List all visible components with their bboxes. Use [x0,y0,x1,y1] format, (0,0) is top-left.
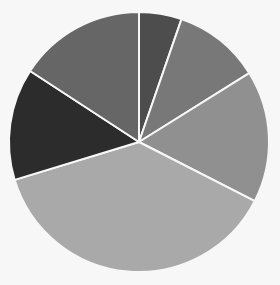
pie-chart [0,0,280,285]
pie-chart-svg [0,0,280,285]
